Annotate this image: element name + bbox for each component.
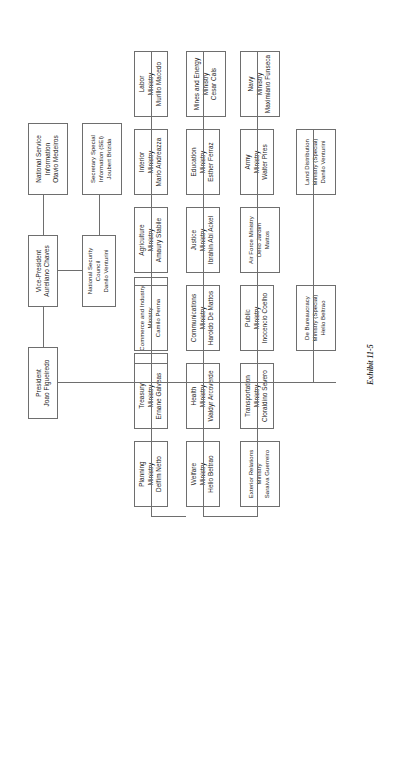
- node-title: Justice: [190, 230, 198, 250]
- node-vice-president: Vice-PresidentAureliano Chaves: [28, 235, 58, 307]
- figure-caption: Exhibit 11-5: [366, 344, 375, 385]
- connector-line: [257, 507, 258, 517]
- node-title: Welfare: [190, 463, 198, 485]
- node-title: Public: [244, 309, 252, 327]
- connector-line: [203, 516, 257, 517]
- node-name: Cesar Cals: [210, 68, 218, 100]
- connector-line: [99, 195, 100, 235]
- node-title: De Bureaucracy: [304, 296, 312, 340]
- node-name: Camilo Penna: [155, 299, 163, 337]
- org-chart-canvas: PresidentJoao FigueiredoVice-PresidentAu…: [0, 0, 400, 757]
- node-name: Helio Beltrao: [207, 455, 215, 492]
- chart-graphics: PresidentJoao FigueiredoVice-PresidentAu…: [0, 0, 400, 757]
- node-name: Danilo Venturini: [320, 141, 328, 184]
- node-title: Interior: [138, 152, 146, 172]
- node-exterior-relations-ministry: Exterior RelationsMinistrySaraiva Guerre…: [240, 441, 280, 507]
- node-title: Education: [190, 148, 198, 177]
- node-title: Planning: [138, 461, 146, 486]
- node-name: Joao Figueiredo: [43, 360, 51, 407]
- node-title: Vice-President: [35, 250, 43, 292]
- node-name: Ernane Galveas: [155, 373, 163, 420]
- node-title: Health: [190, 387, 198, 406]
- node-national-service-information: National ServiceInformationOtavio Medeir…: [28, 123, 68, 195]
- node-national-security-council: National SecurityCouncilDanilo Venturini: [82, 235, 116, 307]
- node-name: Delfim Netto: [155, 456, 163, 492]
- node-title: Treasury: [138, 383, 146, 409]
- node-name: Haroldo De Mattos: [207, 291, 215, 345]
- connector-line: [151, 51, 152, 517]
- node-title: Navy: [247, 77, 255, 92]
- node-title: Labor: [138, 76, 146, 93]
- node-name: Waldyr Arcoverde: [207, 370, 215, 421]
- connector-line: [43, 195, 44, 235]
- connector-line: [58, 270, 82, 271]
- node-name: Otavio Medeiros: [52, 135, 60, 183]
- node-title: Air Force Ministry: [248, 216, 256, 264]
- node-navy-ministry: NavyMinistryMaximiano Funseca: [240, 51, 280, 117]
- node-title: Secretary Special: [90, 135, 98, 183]
- node-de-bureaucracy-ministry: De BureaucracyMinistry (Special)Helio Be…: [296, 285, 336, 351]
- node-name: Ibrahin Abi Ackel: [207, 216, 215, 264]
- connector-line: [43, 307, 44, 347]
- node-secretary-special-information: Secretary SpecialInformation (SEI)Jouber…: [82, 123, 122, 195]
- node-name: Aureliano Chaves: [43, 245, 51, 296]
- node-name: Danilo Venturini: [103, 250, 111, 293]
- connector-line: [58, 382, 336, 383]
- node-title: President: [35, 369, 43, 397]
- connector-line: [257, 51, 258, 517]
- node-president: PresidentJoao Figueiredo: [28, 347, 58, 419]
- node-title: Army: [244, 154, 252, 169]
- node-subtitle: Information (SEI): [98, 136, 106, 182]
- node-name: Helio Beltrao: [320, 300, 328, 335]
- node-land-distribution-ministry: Land DistributionMinistry (Special)Danil…: [296, 129, 336, 195]
- node-name: Mario Andreazza: [155, 138, 163, 187]
- node-name: Mattos: [264, 231, 272, 249]
- connector-line: [151, 507, 152, 517]
- node-name: Joubert Brizida: [106, 139, 114, 180]
- node-name: Maximiano Funseca: [264, 55, 272, 113]
- node-title: Commerce and Industry: [139, 285, 147, 350]
- node-name: Walter Pires: [261, 144, 269, 179]
- connector-line: [151, 516, 186, 517]
- node-air-force-ministry: Air Force MinistryDelio JardimMattos: [240, 207, 280, 273]
- node-name: Saraiva Guerreiro: [264, 450, 272, 498]
- node-title: Land Distribution: [304, 139, 312, 185]
- node-title: Mines and Energy: [193, 58, 201, 111]
- node-name: Murillo Macedo: [155, 62, 163, 106]
- connector-line: [203, 51, 204, 517]
- node-name: Esther Ferraz: [207, 142, 215, 182]
- node-name: Cloraldino Severo: [261, 370, 269, 422]
- node-title: Agriculture: [138, 224, 146, 255]
- node-title: Exterior Relations: [248, 450, 256, 498]
- connector-line: [313, 129, 314, 383]
- node-name: Amaury Stabile: [155, 218, 163, 262]
- node-title: Communications: [190, 294, 198, 343]
- node-subtitle: Information: [44, 143, 52, 176]
- node-title: National Security: [87, 248, 95, 294]
- node-mines-energy-ministry: Mines and EnergyMinistryCesar Cals: [186, 51, 226, 117]
- node-name: Inocencio Coelho: [261, 293, 269, 343]
- node-subtitle: Council: [95, 261, 103, 281]
- node-title: National Service: [35, 135, 43, 183]
